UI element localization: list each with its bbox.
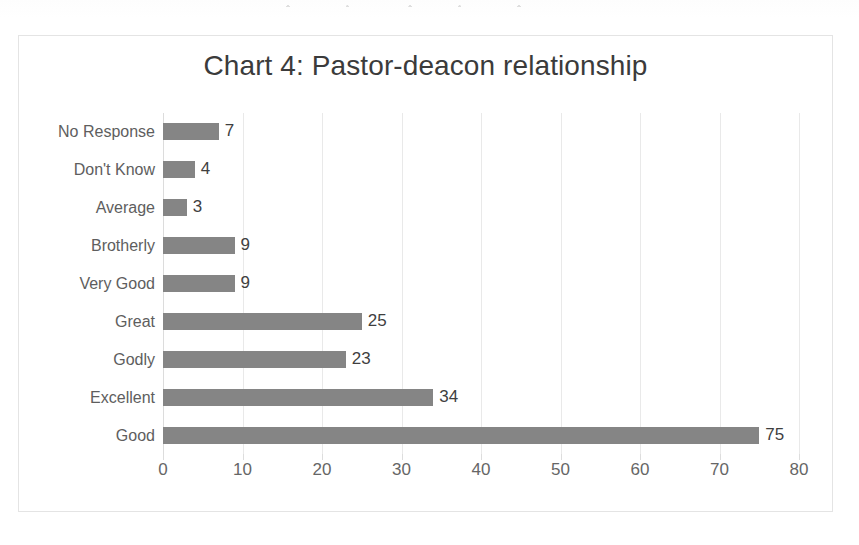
- bar-row: 4: [163, 151, 799, 189]
- category-axis: No ResponseDon't KnowAverageBrotherlyVer…: [23, 113, 155, 455]
- bar[interactable]: [163, 351, 346, 368]
- x-tick-label: 60: [631, 460, 650, 480]
- bar-row: 9: [163, 227, 799, 265]
- chart-title: Chart 4: Pastor-deacon relationship: [19, 50, 832, 82]
- bar-row: 3: [163, 189, 799, 227]
- bar[interactable]: [163, 427, 759, 444]
- x-tick-label: 40: [472, 460, 491, 480]
- ghost-text-row: [255, 0, 585, 7]
- bar[interactable]: [163, 199, 187, 216]
- bar-value-label: 9: [241, 273, 250, 293]
- category-label: No Response: [25, 122, 155, 142]
- bar-row: 9: [163, 265, 799, 303]
- category-label: Godly: [25, 350, 155, 370]
- bar-row: 34: [163, 379, 799, 417]
- bar-value-label: 3: [193, 197, 202, 217]
- category-label: Great: [25, 312, 155, 332]
- bar-row: 25: [163, 303, 799, 341]
- category-label: Brotherly: [25, 236, 155, 256]
- category-label: Excellent: [25, 388, 155, 408]
- bar-value-label: 75: [765, 425, 784, 445]
- category-label: Good: [25, 426, 155, 446]
- x-tick-label: 70: [710, 460, 729, 480]
- bar-row: 7: [163, 113, 799, 151]
- bar[interactable]: [163, 237, 235, 254]
- gridline-80: [799, 113, 800, 455]
- bar-row: 75: [163, 417, 799, 455]
- bar[interactable]: [163, 275, 235, 292]
- x-tick-label: 10: [233, 460, 252, 480]
- x-tick-label: 20: [313, 460, 332, 480]
- bar-value-label: 23: [352, 349, 371, 369]
- chart-container: Chart 4: Pastor-deacon relationship 7439…: [18, 35, 833, 512]
- plot-area: 7439925233475: [163, 113, 799, 455]
- bar[interactable]: [163, 389, 433, 406]
- x-tick-label: 0: [158, 460, 167, 480]
- category-label: Don't Know: [25, 160, 155, 180]
- bar-value-label: 4: [201, 159, 210, 179]
- x-tick-label: 50: [551, 460, 570, 480]
- category-label: Very Good: [25, 274, 155, 294]
- bar-value-label: 34: [439, 387, 458, 407]
- bar[interactable]: [163, 313, 362, 330]
- bar-row: 23: [163, 341, 799, 379]
- cropped-text-artifact: [0, 0, 859, 18]
- bar[interactable]: [163, 161, 195, 178]
- bar-value-label: 9: [241, 235, 250, 255]
- bar[interactable]: [163, 123, 219, 140]
- x-tick-label: 30: [392, 460, 411, 480]
- bar-value-label: 25: [368, 311, 387, 331]
- x-tick-label: 80: [790, 460, 809, 480]
- bar-value-label: 7: [225, 121, 234, 141]
- category-label: Average: [25, 198, 155, 218]
- value-axis: 01020304050607080: [163, 460, 799, 490]
